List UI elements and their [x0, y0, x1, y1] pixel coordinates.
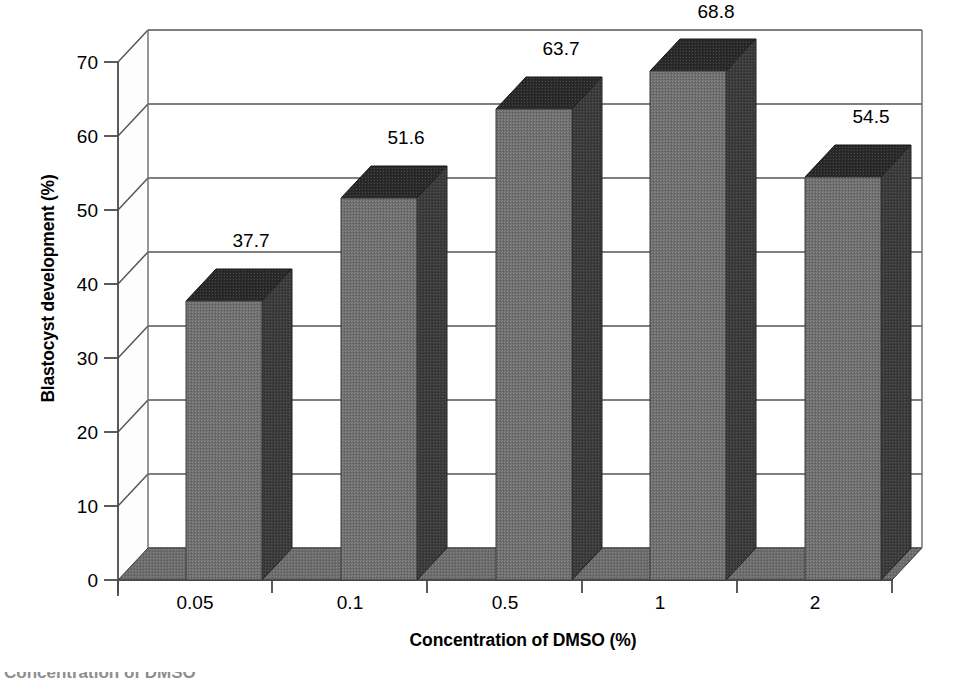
data-label-2: 63.7: [543, 39, 580, 58]
bar-3d-0: [186, 269, 292, 580]
data-label-3: 68.8: [698, 2, 735, 21]
y-tick-label-0: 0: [40, 571, 98, 590]
x-tick-label-4: 2: [810, 592, 821, 614]
cropped-caption: Concentration of DMSO: [0, 672, 967, 679]
chart-plot-area: [0, 0, 967, 679]
bar-3d-4: [805, 145, 911, 580]
x-axis-title: Concentration of DMSO (%): [118, 630, 928, 651]
data-label-0: 37.7: [233, 231, 270, 250]
x-tick-label-0: 0.05: [177, 592, 214, 614]
x-tick-label-3: 1: [655, 592, 666, 614]
x-tick-label-1: 0.1: [337, 592, 363, 614]
bar-3d-3: [650, 39, 756, 580]
x-tick-label-2: 0.5: [492, 592, 518, 614]
bar-3d-2: [496, 77, 602, 580]
data-label-4: 54.5: [853, 107, 890, 126]
chart-figure: 70 60 50 40 30 20 10 0 Blastocyst develo…: [0, 0, 967, 679]
bar-3d-1: [341, 166, 447, 580]
y-axis-title: Blastocyst development (%): [38, 59, 59, 519]
cropped-caption-text: Concentration of DMSO: [4, 672, 967, 679]
data-label-1: 51.6: [388, 128, 425, 147]
